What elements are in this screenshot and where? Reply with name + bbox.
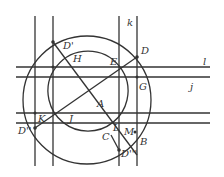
label-Dtprime: D''' xyxy=(120,148,137,159)
geometry-diagram: k l j D D' H E G A K J D'' C L M B D''' xyxy=(0,0,224,177)
point-G xyxy=(136,76,139,79)
label-C: C xyxy=(102,131,110,142)
line-Dprime-B xyxy=(53,42,137,155)
label-K: K xyxy=(37,113,46,124)
label-L: L xyxy=(112,122,120,133)
point-Dprime xyxy=(51,40,55,44)
label-Dprime: D' xyxy=(62,40,74,51)
label-Ddprime: D'' xyxy=(17,125,32,136)
diagram-canvas: k l j D D' H E G A K J D'' C L M B D''' xyxy=(0,0,224,177)
label-D: D xyxy=(140,45,149,56)
label-k: k xyxy=(127,17,133,28)
label-J: J xyxy=(67,113,74,124)
label-A: A xyxy=(96,98,104,109)
point-upper-left xyxy=(52,66,55,69)
line-Dtprime-L xyxy=(111,135,119,150)
large-circle xyxy=(23,36,151,164)
label-H: H xyxy=(72,53,82,64)
label-G: G xyxy=(139,81,147,92)
point-D xyxy=(135,55,139,59)
label-M: M xyxy=(123,126,135,137)
label-j: j xyxy=(188,81,193,92)
label-B: B xyxy=(139,136,147,147)
point-K xyxy=(34,112,37,115)
label-l: l xyxy=(203,56,206,67)
label-E: E xyxy=(109,56,118,67)
point-Ddprime xyxy=(33,126,37,130)
